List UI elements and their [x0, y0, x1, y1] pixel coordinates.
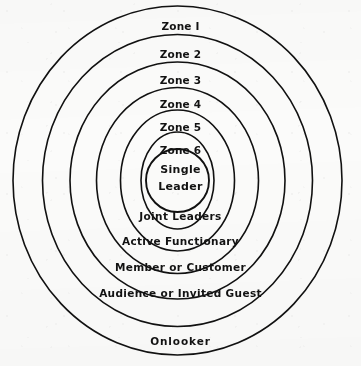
zone-label-4: Zone 4	[0, 99, 361, 110]
zone-label-2: Zone 2	[0, 49, 361, 60]
role-label-audience-or-guest: Audience or Invited Guest	[0, 288, 361, 299]
zone-label-3: Zone 3	[0, 75, 361, 86]
zone-label-6: Zone 6	[0, 145, 361, 156]
core-label-line-2: Leader	[0, 181, 361, 192]
concentric-zone-diagram: Zone I Zone 2 Zone 3 Zone 4 Zone 5 Zone …	[0, 0, 361, 366]
role-label-member-or-customer: Member or Customer	[0, 262, 361, 273]
core-label-line-1: Single	[0, 164, 361, 175]
zone-label-5: Zone 5	[0, 122, 361, 133]
role-label-joint-leaders: Joint Leaders	[0, 211, 361, 222]
role-label-active-functionary: Active Functionary	[0, 236, 361, 247]
zone-label-1: Zone I	[0, 21, 361, 32]
role-label-onlooker: Onlooker	[0, 336, 361, 347]
